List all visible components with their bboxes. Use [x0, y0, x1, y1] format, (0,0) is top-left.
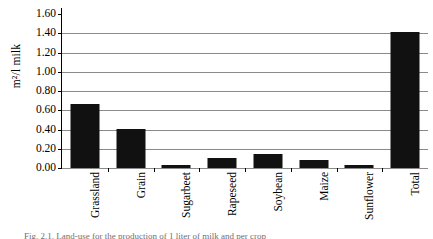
plot-area: 1.601.401.201.000.800.600.400.200.00: [62, 14, 428, 168]
x-tick-mark: [337, 168, 338, 172]
bar-slot: [199, 14, 245, 168]
bar-chart-figure: m²/l milk 1.601.401.201.000.800.600.400.…: [0, 0, 433, 239]
y-tick-label: 1.20: [36, 47, 56, 59]
y-tick-label: 0.00: [36, 162, 56, 174]
y-tick-label: 1.60: [36, 8, 56, 20]
y-axis-title: m²/l milk: [10, 11, 22, 121]
bar: [299, 160, 328, 168]
x-tick-mark: [108, 168, 109, 172]
bar: [70, 104, 99, 168]
bar-slot: [154, 14, 200, 168]
x-category-label: Rapeseed: [227, 172, 239, 216]
figure-caption: Fig. 2.1. Land-use for the production of…: [24, 231, 424, 239]
y-tick-label: 1.00: [36, 66, 56, 78]
x-category-label: Soybean: [273, 172, 285, 212]
y-tick-mark: [58, 168, 62, 169]
x-category-label: Grain: [136, 172, 148, 198]
x-category-label: Sunflower: [364, 172, 376, 220]
x-tick-mark: [154, 168, 155, 172]
bar-slot: [62, 14, 108, 168]
bar-slot: [245, 14, 291, 168]
bar-slot: [108, 14, 154, 168]
x-tick-mark: [291, 168, 292, 172]
y-tick-label: 0.40: [36, 124, 56, 136]
y-tick-label: 0.60: [36, 105, 56, 117]
y-tick-label: 0.80: [36, 85, 56, 97]
bar: [253, 154, 282, 168]
plot-inner: 1.601.401.201.000.800.600.400.200.00: [62, 14, 428, 168]
bar-slot: [382, 14, 428, 168]
bar: [345, 165, 374, 168]
x-tick-mark: [245, 168, 246, 172]
x-category-label: Grassland: [90, 172, 102, 218]
x-tick-mark: [382, 168, 383, 172]
bar: [208, 158, 237, 168]
bar: [116, 129, 145, 168]
x-category-label: Maize: [319, 172, 331, 201]
x-category-label: Sugarbeet: [181, 172, 193, 218]
bar: [162, 165, 191, 168]
bar-slot: [337, 14, 383, 168]
y-tick-label: 0.20: [36, 143, 56, 155]
y-tick-label: 1.40: [36, 28, 56, 40]
bar-slot: [291, 14, 337, 168]
bar: [391, 32, 420, 168]
x-tick-mark: [199, 168, 200, 172]
x-category-label: Total: [410, 172, 422, 195]
